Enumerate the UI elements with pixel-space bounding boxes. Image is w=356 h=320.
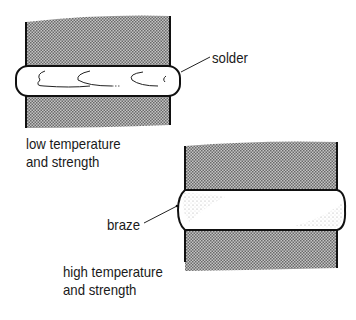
- lower-metal-piece: [26, 94, 170, 128]
- braze-caption-line1: high temperature: [63, 262, 163, 282]
- upper-metal-piece: [26, 16, 170, 68]
- solder-caption-line1: low temperature: [26, 134, 121, 154]
- braze-joint: [144, 142, 345, 272]
- solder-filler: [16, 66, 180, 96]
- solder-caption-line2: and strength: [26, 152, 99, 172]
- braze-leader-line: [144, 206, 177, 223]
- solder-joint: [16, 16, 210, 128]
- upper-metal-piece: [185, 142, 337, 193]
- lower-metal-piece: [185, 229, 337, 271]
- solder-label: solder: [212, 48, 248, 68]
- braze-caption-line2: and strength: [63, 280, 136, 300]
- solder-leader-line: [181, 57, 210, 72]
- braze-label: braze: [107, 215, 140, 235]
